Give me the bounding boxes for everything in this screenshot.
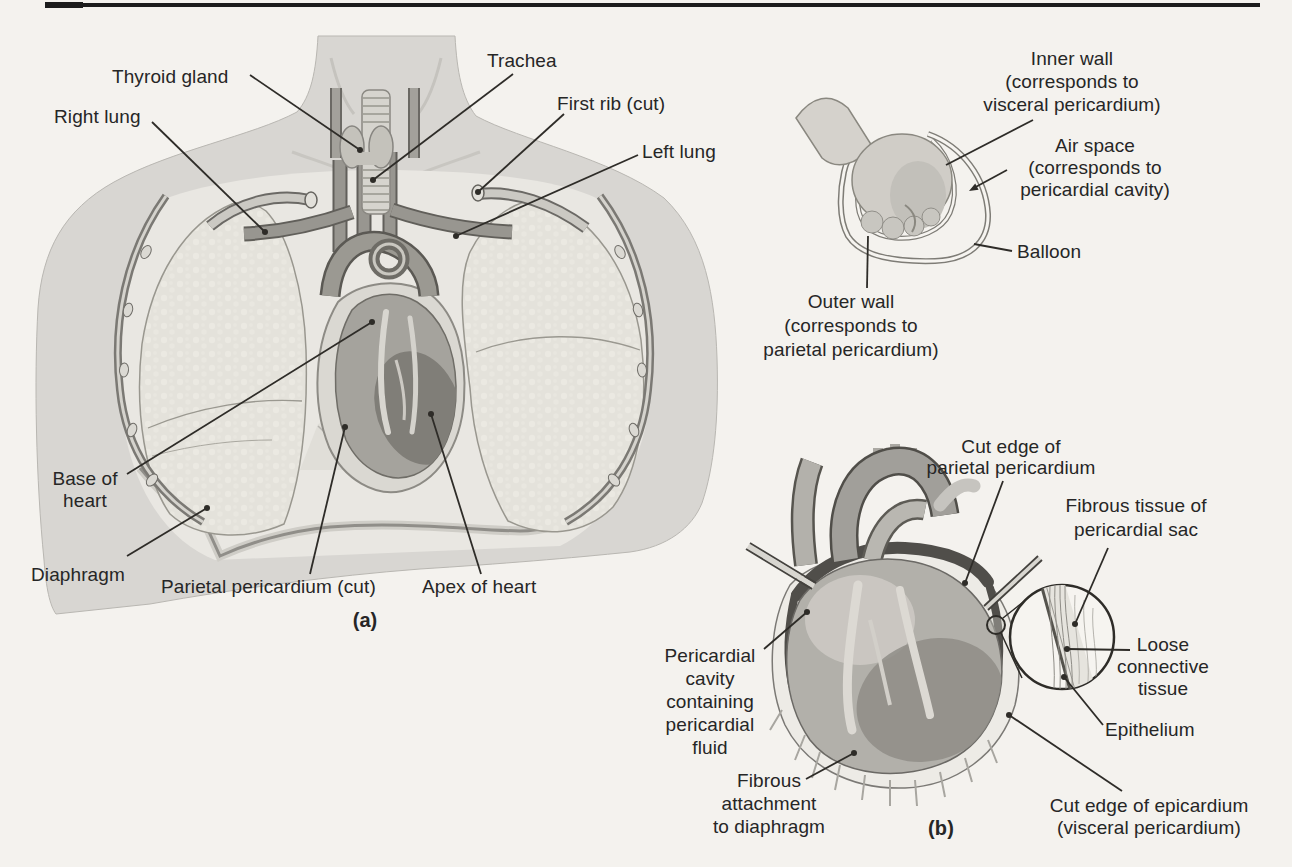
textbook-figure-page: Thyroid gland Trachea First rib (cut) Ri… xyxy=(0,0,1292,867)
label-outer-wall: Outer wall (corresponds to parietal peri… xyxy=(747,290,955,362)
label-epithelium: Epithelium xyxy=(1105,719,1195,741)
air-space-arrowhead xyxy=(969,184,979,192)
fist-shape xyxy=(796,98,952,239)
label-apex-of-heart: Apex of heart xyxy=(422,576,536,598)
label-pericardial-cavity: Pericardial cavity containing pericardia… xyxy=(654,644,766,759)
label-fibrous-attachment: Fibrous attachment to diaphragm xyxy=(703,769,835,838)
balloon-illustration xyxy=(796,98,988,261)
label-inner-wall: Inner wall (corresponds to visceral peri… xyxy=(968,47,1176,116)
leader-outer-wall xyxy=(867,236,868,288)
label-right-lung: Right lung xyxy=(54,106,141,128)
label-parietal-pericardium: Parietal pericardium (cut) xyxy=(161,576,376,598)
label-base-of-heart: Base of heart xyxy=(40,468,130,512)
label-cut-edge-epicardium: Cut edge of epicardium (visceral pericar… xyxy=(1037,795,1261,839)
label-thyroid-gland: Thyroid gland xyxy=(112,66,228,88)
caption-panel-b: (b) xyxy=(915,817,967,839)
label-diaphragm: Diaphragm xyxy=(31,564,125,586)
leader-balloon xyxy=(974,244,1012,251)
label-air-space: Air space (corresponds to pericardial ca… xyxy=(991,135,1199,201)
leader-cut-edge-parietal xyxy=(965,481,1003,583)
label-first-rib: First rib (cut) xyxy=(557,93,665,115)
label-balloon: Balloon xyxy=(1017,241,1081,263)
label-trachea: Trachea xyxy=(487,50,557,72)
label-fibrous-tissue: Fibrous tissue of pericardial sac xyxy=(1035,494,1237,542)
label-left-lung: Left lung xyxy=(642,141,716,163)
label-cut-edge-parietal: Cut edge of parietal pericardium xyxy=(910,436,1112,478)
figure-artwork xyxy=(0,0,1292,867)
label-loose-connective-tissue: Loose connective tissue xyxy=(1105,634,1221,700)
caption-panel-a: (a) xyxy=(340,609,390,631)
